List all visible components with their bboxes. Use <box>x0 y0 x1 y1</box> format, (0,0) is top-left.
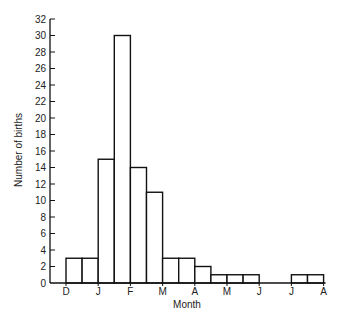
x-tick-label: A <box>320 286 327 297</box>
x-tick-label: J <box>257 286 262 297</box>
x-tick-label: J <box>96 286 101 297</box>
histogram-bar <box>308 275 324 283</box>
histogram-chart: 02468101214161820222426283032 DJFMAMJJA … <box>0 0 342 326</box>
y-tick-label: 12 <box>35 179 47 190</box>
histogram-bar <box>82 258 98 283</box>
x-tick-label: D <box>62 286 69 297</box>
y-tick-label: 14 <box>35 162 47 173</box>
y-tick-label: 6 <box>40 228 46 239</box>
x-tick-label: F <box>127 286 133 297</box>
y-axis: 02468101214161820222426283032 <box>35 14 55 289</box>
y-tick-label: 22 <box>35 96 47 107</box>
histogram-bar <box>243 275 259 283</box>
y-tick-label: 18 <box>35 129 47 140</box>
x-tick-label: J <box>289 286 294 297</box>
x-axis-title: Month <box>173 299 201 310</box>
x-tick-label: M <box>158 286 166 297</box>
histogram-bar <box>211 275 227 283</box>
histogram-bar <box>147 192 163 283</box>
y-axis-title: Number of births <box>13 113 24 187</box>
x-tick-label: A <box>191 286 198 297</box>
y-tick-label: 16 <box>35 146 47 157</box>
x-tick-label: M <box>223 286 231 297</box>
y-tick-label: 24 <box>35 80 47 91</box>
histogram-bar <box>114 36 130 284</box>
y-tick-label: 0 <box>40 278 46 289</box>
y-tick-label: 26 <box>35 63 47 74</box>
bars <box>66 36 324 284</box>
y-tick-label: 4 <box>40 245 46 256</box>
histogram-bar <box>130 168 146 284</box>
y-tick-label: 2 <box>40 261 46 272</box>
histogram-bar <box>66 258 82 283</box>
histogram-bar <box>291 275 307 283</box>
x-axis: DJFMAMJJA <box>50 283 327 297</box>
y-tick-label: 8 <box>40 212 46 223</box>
histogram-bar <box>179 258 195 283</box>
y-tick-label: 10 <box>35 195 47 206</box>
y-tick-label: 30 <box>35 30 47 41</box>
y-tick-label: 28 <box>35 47 47 58</box>
histogram-bar <box>227 275 243 283</box>
y-tick-label: 32 <box>35 14 47 25</box>
histogram-bar <box>163 258 179 283</box>
y-tick-label: 20 <box>35 113 47 124</box>
histogram-bar <box>98 159 114 283</box>
histogram-bar <box>195 267 211 284</box>
